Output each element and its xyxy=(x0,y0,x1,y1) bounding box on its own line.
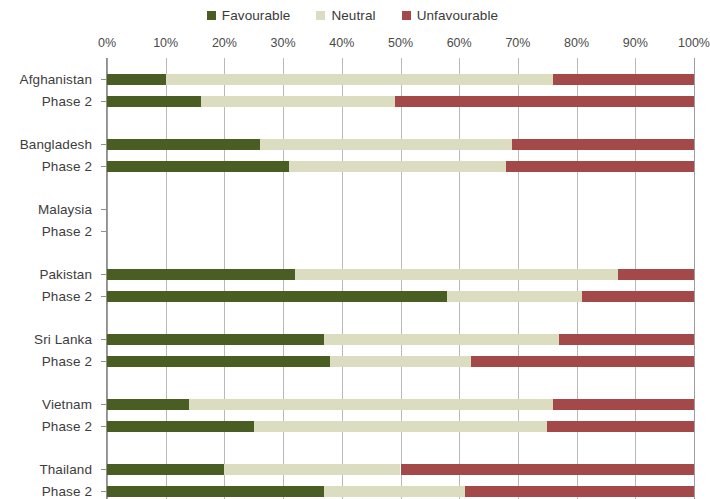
bar-row[interactable] xyxy=(107,96,694,107)
x-tick-label: 80% xyxy=(564,36,589,50)
bar-row[interactable] xyxy=(107,334,694,345)
y-axis-label-malaysia-phase-2: Phase 2 xyxy=(0,224,92,239)
bar-segment-unfavourable[interactable] xyxy=(618,269,694,280)
bar-segment-neutral[interactable] xyxy=(324,486,465,497)
bar-segment-unfavourable[interactable] xyxy=(582,291,694,302)
y-axis-label-pakistan-phase-2: Phase 2 xyxy=(0,289,92,304)
y-axis-tickmark xyxy=(101,469,107,470)
y-axis-tickmark xyxy=(101,426,107,427)
legend-label: Favourable xyxy=(222,8,291,23)
bar-row[interactable] xyxy=(107,356,694,367)
y-axis-tickmark xyxy=(101,231,107,232)
y-axis-tickmark xyxy=(101,274,107,275)
y-axis-label-afghanistan: Afghanistan xyxy=(0,72,92,87)
bar-segment-unfavourable[interactable] xyxy=(471,356,694,367)
bar-row[interactable] xyxy=(107,161,694,172)
x-tick-label: 40% xyxy=(329,36,354,50)
y-axis-label-bangladesh-phase-2: Phase 2 xyxy=(0,159,92,174)
bar-segment-unfavourable[interactable] xyxy=(547,421,694,432)
y-axis-label-vietnam: Vietnam xyxy=(0,397,92,412)
bar-segment-unfavourable[interactable] xyxy=(506,161,694,172)
bar-segment-neutral[interactable] xyxy=(224,464,400,475)
bar-segment-favourable[interactable] xyxy=(107,269,295,280)
x-tick-label: 30% xyxy=(271,36,296,50)
bar-segment-favourable[interactable] xyxy=(107,74,166,85)
bar-segment-unfavourable[interactable] xyxy=(553,74,694,85)
y-axis-tickmark xyxy=(101,296,107,297)
bar-row[interactable] xyxy=(107,74,694,85)
y-axis-label-sri-lanka: Sri Lanka xyxy=(0,332,92,347)
bar-segment-neutral[interactable] xyxy=(447,291,582,302)
bar-row[interactable] xyxy=(107,421,694,432)
bar-segment-favourable[interactable] xyxy=(107,464,224,475)
y-axis-label-malaysia: Malaysia xyxy=(0,202,92,217)
bar-row[interactable] xyxy=(107,464,694,475)
bar-segment-favourable[interactable] xyxy=(107,96,201,107)
y-axis-tickmark xyxy=(101,144,107,145)
x-tick-label: 20% xyxy=(212,36,237,50)
chart-plot-area xyxy=(107,58,694,499)
y-axis-tickmark xyxy=(101,101,107,102)
bar-segment-favourable[interactable] xyxy=(107,421,254,432)
y-axis-label-afghanistan-phase-2: Phase 2 xyxy=(0,94,92,109)
y-axis-tickmark xyxy=(101,404,107,405)
chart-legend: FavourableNeutralUnfavourable xyxy=(0,0,705,30)
y-axis-tickmark xyxy=(101,79,107,80)
bar-segment-unfavourable[interactable] xyxy=(395,96,694,107)
bar-segment-favourable[interactable] xyxy=(107,356,330,367)
y-axis-label-bangladesh: Bangladesh xyxy=(0,137,92,152)
bar-segment-neutral[interactable] xyxy=(166,74,553,85)
y-axis-tickmark xyxy=(101,166,107,167)
bar-segment-neutral[interactable] xyxy=(330,356,471,367)
bar-row[interactable] xyxy=(107,486,694,497)
y-axis-tickmark xyxy=(101,361,107,362)
x-tick-label: 100% xyxy=(678,36,710,50)
bar-row[interactable] xyxy=(107,399,694,410)
x-tick-label: 70% xyxy=(505,36,530,50)
bar-row[interactable] xyxy=(107,139,694,150)
legend-item-neutral[interactable]: Neutral xyxy=(316,8,375,23)
legend-swatch-unfavourable-icon xyxy=(402,11,411,20)
bar-segment-neutral[interactable] xyxy=(189,399,553,410)
x-tick-label: 90% xyxy=(623,36,648,50)
y-axis-label-thailand: Thailand xyxy=(0,462,92,477)
y-axis-category-labels: AfghanistanPhase 2BangladeshPhase 2Malay… xyxy=(0,58,100,499)
y-axis-label-vietnam-phase-2: Phase 2 xyxy=(0,419,92,434)
y-axis-label-thailand-phase-2: Phase 2 xyxy=(0,484,92,499)
bar-segment-neutral[interactable] xyxy=(295,269,618,280)
legend-item-favourable[interactable]: Favourable xyxy=(207,8,291,23)
legend-swatch-favourable-icon xyxy=(207,11,216,20)
chart-plot-wrapper: AfghanistanPhase 2BangladeshPhase 2Malay… xyxy=(0,58,705,499)
y-axis-tickmark xyxy=(101,491,107,492)
bar-segment-favourable[interactable] xyxy=(107,291,447,302)
x-tick-label: 10% xyxy=(153,36,178,50)
bar-segment-favourable[interactable] xyxy=(107,161,289,172)
gridline xyxy=(694,58,695,499)
bar-segment-neutral[interactable] xyxy=(254,421,548,432)
bar-segment-unfavourable[interactable] xyxy=(465,486,694,497)
legend-swatch-neutral-icon xyxy=(316,11,325,20)
bar-segment-favourable[interactable] xyxy=(107,139,260,150)
bar-row[interactable] xyxy=(107,269,694,280)
bar-row[interactable] xyxy=(107,291,694,302)
x-tick-label: 0% xyxy=(98,36,116,50)
bar-segment-favourable[interactable] xyxy=(107,334,324,345)
y-axis-label-sri-lanka-phase-2: Phase 2 xyxy=(0,354,92,369)
y-axis-tickmark xyxy=(101,209,107,210)
bar-segment-favourable[interactable] xyxy=(107,399,189,410)
bar-segment-neutral[interactable] xyxy=(260,139,512,150)
bar-segment-favourable[interactable] xyxy=(107,486,324,497)
bar-segment-neutral[interactable] xyxy=(201,96,395,107)
legend-item-unfavourable[interactable]: Unfavourable xyxy=(402,8,499,23)
legend-label: Unfavourable xyxy=(417,8,499,23)
x-axis-tick-labels: 0%10%20%30%40%50%60%70%80%90%100% xyxy=(0,36,705,56)
legend-label: Neutral xyxy=(331,8,375,23)
bar-segment-unfavourable[interactable] xyxy=(553,399,694,410)
bar-segment-unfavourable[interactable] xyxy=(559,334,694,345)
bar-segment-unfavourable[interactable] xyxy=(401,464,695,475)
bar-segment-neutral[interactable] xyxy=(324,334,559,345)
bar-segment-unfavourable[interactable] xyxy=(512,139,694,150)
x-tick-label: 60% xyxy=(447,36,472,50)
y-axis-label-pakistan: Pakistan xyxy=(0,267,92,282)
bar-segment-neutral[interactable] xyxy=(289,161,506,172)
